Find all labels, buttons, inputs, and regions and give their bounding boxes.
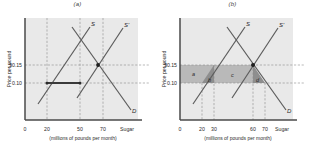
x-tick-60: 60 [250, 126, 256, 132]
x-tick-70: 70 [100, 126, 106, 132]
x-axis-title: Sugar [275, 126, 289, 132]
x-tick-50: 50 [77, 126, 83, 132]
point-quantity-supplied-20 [46, 82, 49, 85]
curve-label-d: D [287, 108, 292, 114]
figure-container: (a) S [0, 0, 310, 151]
region-label-b: b [208, 77, 211, 83]
x-tick-20: 20 [44, 126, 50, 132]
panel-b: (b) a [155, 0, 310, 151]
x-axis-title: Sugar [120, 126, 134, 132]
panel-a-chart: S S' D $0.15 0.10 0 20 50 70 Sugar (mill… [0, 0, 155, 151]
x-axis-subtitle: (millions of pounds per month) [49, 135, 117, 141]
curve-label-d: D [132, 108, 137, 114]
x-tick-origin: 0 [24, 126, 27, 132]
region-label-c: c [231, 72, 234, 78]
x-tick-origin: 0 [179, 126, 182, 132]
region-a-c-band [180, 65, 253, 83]
curve-label-s-prime: S' [124, 22, 130, 28]
region-label-a: a [192, 71, 195, 77]
point-quantity-demanded-50 [79, 82, 82, 85]
price-tick-010: 0.10 [167, 80, 177, 86]
curve-label-s: S [246, 21, 250, 27]
curve-label-s-prime: S' [279, 22, 285, 28]
equilibrium-point [251, 63, 255, 67]
y-axis-title: Price per pound [161, 51, 167, 88]
y-axis-title: Price per pound [6, 51, 12, 88]
x-tick-30: 30 [211, 126, 217, 132]
panel-b-chart: a b c d S S' D $0.15 0.10 0 20 30 60 70 … [155, 0, 310, 151]
panel-a: (a) S [0, 0, 155, 151]
x-tick-70: 70 [262, 126, 268, 132]
equilibrium-point [96, 63, 100, 67]
x-tick-20: 20 [199, 126, 205, 132]
plot-area-background [25, 18, 138, 120]
price-tick-010: 0.10 [12, 80, 22, 86]
x-axis-subtitle: (millions of pounds per month) [204, 135, 272, 141]
curve-label-s: S [91, 21, 95, 27]
